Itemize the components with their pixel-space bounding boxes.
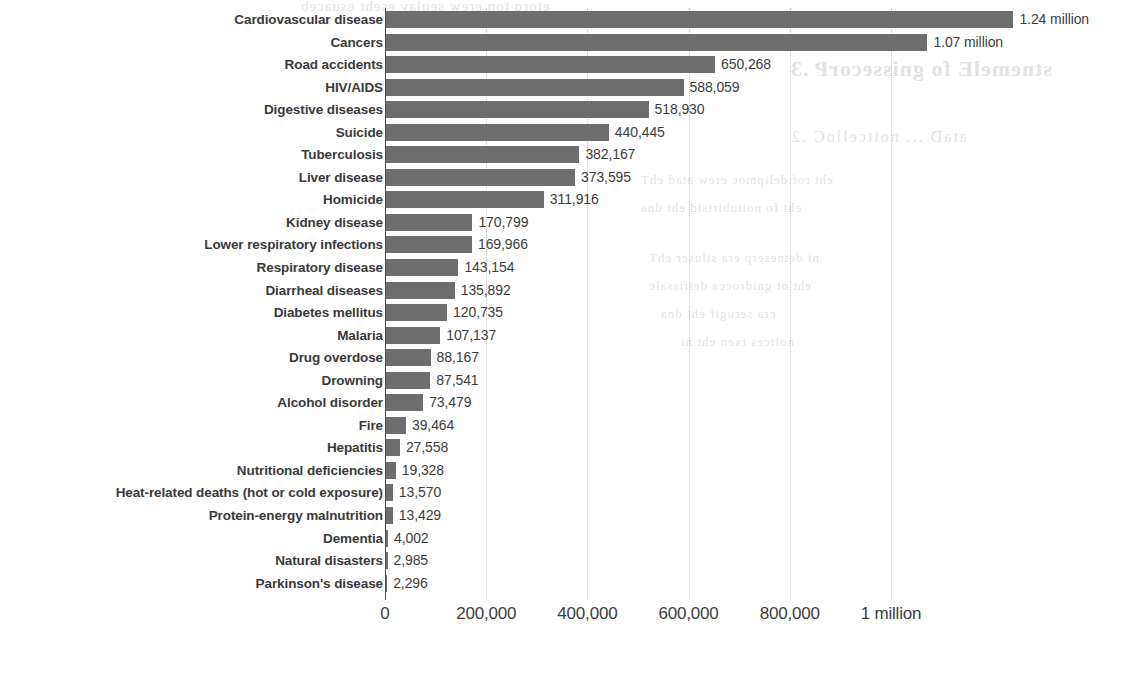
bar-row: Road accidents650,268 [0, 55, 1130, 78]
bar-category-label: Malaria [337, 327, 383, 344]
bar-value-label: 2,296 [393, 575, 428, 592]
bar-category-label: Homicide [323, 191, 383, 208]
bar-value-label: 440,445 [615, 124, 665, 141]
bar [386, 327, 440, 344]
bar-value-label: 311,916 [550, 191, 599, 208]
plot-area: Cardiovascular disease1.24 millionCancer… [0, 0, 1130, 676]
bar-category-label: Fire [359, 417, 383, 434]
bar-category-label: Kidney disease [286, 214, 383, 231]
bar-category-label: Respiratory disease [257, 259, 383, 276]
bar [386, 439, 400, 456]
bar [386, 124, 609, 141]
bar-value-label: 73,479 [429, 394, 471, 411]
bar [386, 282, 455, 299]
bar-value-label: 4,002 [394, 530, 429, 547]
bar-category-label: Diabetes mellitus [274, 304, 383, 321]
bar [386, 34, 927, 51]
bar [386, 394, 423, 411]
x-axis-tick-label: 400,000 [557, 604, 617, 624]
bar-category-label: Cardiovascular disease [234, 11, 383, 28]
bar-row: Lower respiratory infections169,966 [0, 235, 1130, 258]
bar-row: Heat-related deaths (hot or cold exposur… [0, 483, 1130, 506]
bar-category-label: Natural disasters [275, 552, 383, 569]
bar-category-label: Diarrheal diseases [265, 282, 383, 299]
bar-category-label: Digestive diseases [264, 101, 383, 118]
bar-value-label: 588,059 [690, 79, 740, 96]
bar [386, 304, 447, 321]
bar-value-label: 19,328 [402, 462, 444, 479]
bar-category-label: Drug overdose [289, 349, 383, 366]
bar [386, 191, 544, 208]
bar [386, 462, 396, 479]
bar-row: Cardiovascular disease1.24 million [0, 10, 1130, 33]
bar-value-label: 13,570 [399, 484, 441, 501]
bar-row: Nutritional deficiencies19,328 [0, 461, 1130, 484]
bar [386, 56, 715, 73]
bar-category-label: Cancers [330, 34, 383, 51]
bar [386, 214, 472, 231]
bar [386, 146, 579, 163]
bar-category-label: Road accidents [285, 56, 383, 73]
bar-value-label: 373,595 [581, 169, 631, 186]
bar-category-label: Protein-energy malnutrition [209, 507, 383, 524]
bar-row: Diabetes mellitus120,735 [0, 303, 1130, 326]
bar-category-label: Liver disease [299, 169, 383, 186]
x-axis-tick-label: 600,000 [659, 604, 719, 624]
bar-value-label: 143,154 [464, 259, 514, 276]
bar [386, 236, 472, 253]
bar-value-label: 169,966 [478, 236, 528, 253]
bar-rows: Cardiovascular disease1.24 millionCancer… [0, 10, 1130, 596]
bar-category-label: Hepatitis [327, 439, 383, 456]
bar [386, 79, 684, 96]
bar-row: Liver disease373,595 [0, 168, 1130, 191]
bar-row: Cancers1.07 million [0, 33, 1130, 56]
bar-category-label: Lower respiratory infections [204, 236, 383, 253]
bar [386, 552, 388, 569]
bar-row: Dementia4,002 [0, 529, 1130, 552]
bar-row: Suicide440,445 [0, 123, 1130, 146]
bar-row: Alcohol disorder73,479 [0, 393, 1130, 416]
bar-value-label: 88,167 [437, 349, 479, 366]
bar-value-label: 518,930 [655, 101, 705, 118]
bar-category-label: Heat-related deaths (hot or cold exposur… [116, 484, 383, 501]
bar-value-label: 1.24 million [1019, 11, 1089, 28]
bar-category-label: HIV/AIDS [325, 79, 383, 96]
bar-value-label: 135,892 [461, 282, 511, 299]
bar-row: Kidney disease170,799 [0, 213, 1130, 236]
x-axis: 0200,000400,000600,000800,0001 million [0, 604, 1130, 644]
bar [386, 417, 406, 434]
bar-row: Respiratory disease143,154 [0, 258, 1130, 281]
bar-value-label: 27,558 [406, 439, 448, 456]
bar [386, 259, 458, 276]
bar-category-label: Drowning [322, 372, 383, 389]
bar [386, 575, 387, 592]
bar-row: Fire39,464 [0, 416, 1130, 439]
bar-value-label: 120,735 [453, 304, 503, 321]
bar-value-label: 170,799 [478, 214, 528, 231]
bar-value-label: 39,464 [412, 417, 454, 434]
bar-row: HIV/AIDS588,059 [0, 78, 1130, 101]
bar-value-label: 13,429 [399, 507, 441, 524]
bar-row: Drowning87,541 [0, 371, 1130, 394]
bar-value-label: 87,541 [436, 372, 478, 389]
bar-row: Digestive diseases518,930 [0, 100, 1130, 123]
bar [386, 169, 575, 186]
bar-row: Protein-energy malnutrition13,429 [0, 506, 1130, 529]
bar [386, 101, 649, 118]
bar [386, 372, 430, 389]
bar-row: Diarrheal diseases135,892 [0, 281, 1130, 304]
x-axis-tick-label: 0 [380, 604, 389, 624]
bar-row: Tuberculosis382,167 [0, 145, 1130, 168]
bar-category-label: Nutritional deficiencies [237, 462, 383, 479]
bar-row: Homicide311,916 [0, 190, 1130, 213]
bar-row: Drug overdose88,167 [0, 348, 1130, 371]
x-axis-tick-label: 1 million [861, 604, 922, 624]
bar-row: Hepatitis27,558 [0, 438, 1130, 461]
bar [386, 484, 393, 501]
bar-value-label: 107,137 [446, 327, 496, 344]
x-axis-tick-label: 800,000 [760, 604, 820, 624]
bar-category-label: Suicide [336, 124, 383, 141]
bar-value-label: 2,985 [394, 552, 429, 569]
bar-category-label: Tuberculosis [301, 146, 383, 163]
bar-value-label: 650,268 [721, 56, 771, 73]
